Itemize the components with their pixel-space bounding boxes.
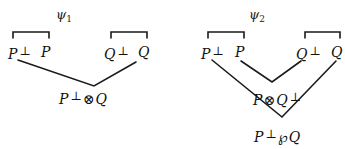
psi1-tensor-link [18, 60, 136, 86]
psi2-conclusion: P⊥℘Q [254, 128, 300, 144]
psi2-axiom-link-p [208, 32, 244, 38]
psi2-title: ψ2 [249, 8, 265, 24]
psi1-title: ψ1 [56, 8, 72, 24]
psi2-tensor-link [241, 61, 301, 82]
psi1-axiom-p: P [41, 45, 50, 59]
psi1-axiom-p-perp: P⊥ [8, 45, 31, 61]
psi2-axiom-q: Q [331, 45, 342, 59]
psi2-axiom-p-perp: P⊥ [201, 45, 224, 61]
psi2-axiom-link-q [305, 32, 340, 38]
psi2-par-link [212, 60, 336, 117]
psi1-axiom-link-q [111, 32, 147, 38]
proof-net-diagram [0, 0, 345, 149]
psi2-intermediate: P⊗Q⊥ [253, 91, 301, 107]
psi1-axiom-q: Q [138, 45, 149, 59]
psi2-axiom-p: P [235, 45, 244, 59]
psi2-axiom-q-perp: Q⊥ [296, 45, 321, 61]
psi1-axiom-q-perp: Q⊥ [104, 45, 129, 61]
psi1-conclusion: P⊥⊗Q [59, 90, 107, 106]
psi1-axiom-link-p [13, 32, 49, 38]
